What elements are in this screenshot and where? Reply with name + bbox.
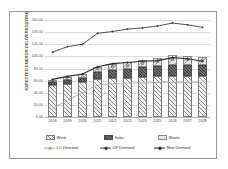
legend-label-med-demand: Med Demand [167,145,191,150]
line-series-overlay [45,20,210,117]
x-axis-labels: 2018201920202021202220232024202520262027… [45,119,210,129]
x-axis-tick-label: 2025 [153,119,161,123]
line-marker [51,78,53,80]
line-marker [111,30,113,32]
line-marker [66,45,68,47]
legend-item-waste: Waste [158,135,180,140]
line-marker [186,58,188,60]
line-marker [201,26,203,28]
y-axis-title: EXPECTED ENERGY DELIVERED(GWH) [22,3,32,99]
legend-label-up-demand: UP Demand [113,145,135,150]
legend-row-bars: Wind Solar Waste [36,135,212,144]
x-axis-tick-label: 2023 [123,119,131,123]
wind-swatch-icon [46,135,55,140]
y-axis-tick-label: 60,00 [34,79,43,83]
line-med-demand [53,58,203,80]
x-axis-tick-label: 2028 [198,119,206,123]
line-marker [156,59,158,61]
line-up-demand [53,23,203,52]
x-axis-tick-label: 2020 [78,119,86,123]
line-lo-demand [53,82,203,108]
chart-plot-frame: EXPECTED ENERGY DELIVERED(GWH) 160,00140… [9,11,217,159]
legend-label-solar: Solar [115,135,124,140]
solar-swatch-icon [104,135,113,140]
gridline [45,117,210,118]
legend-row-lines: LO Demand UP Demand Med Demand [36,145,212,154]
y-axis-tick-label: 100,00 [32,54,43,58]
legend-item-lo-demand: LO Demand [44,145,78,150]
y-axis-tick-label: 80,00 [34,67,43,71]
y-axis-tick-label: 120,00 [32,42,43,46]
line-marker [186,24,188,26]
x-axis-tick-label: 2024 [138,119,146,123]
up-demand-line-icon [100,145,111,150]
chart-legend: Wind Solar Waste LO Demand [36,135,212,157]
line-marker [126,28,128,30]
plot-area: 160,00140,00120,00100,0080,0060,0040,002… [45,20,210,117]
x-axis-tick-label: 2021 [93,119,101,123]
y-axis-tick-label: 140,00 [32,30,43,34]
line-marker [171,22,173,24]
line-marker [141,60,143,62]
x-axis-tick-label: 2018 [48,119,56,123]
legend-label-wind: Wind [57,135,66,140]
legend-item-solar: Solar [104,135,124,140]
legend-label-waste: Waste [169,135,180,140]
line-marker [51,51,53,53]
x-axis-tick-label: 2019 [63,119,71,123]
legend-label-lo-demand: LO Demand [57,145,79,150]
line-marker [141,27,143,29]
y-axis-tick-label: 20,00 [34,103,43,107]
y-axis-tick-label: 160,00 [32,18,43,22]
line-marker [126,61,128,63]
waste-swatch-icon [158,135,167,140]
legend-item-med-demand: Med Demand [154,145,191,150]
x-axis-tick-label: 2026 [168,119,176,123]
lo-demand-line-icon [44,145,55,150]
x-axis-tick-label: 2027 [183,119,191,123]
line-marker [201,60,203,62]
line-marker [111,62,113,64]
med-demand-line-icon [154,145,165,150]
y-axis-tick-label: 0,00 [36,115,43,119]
chart-figure: EXPECTED ENERGY DELIVERED(GWH) 160,00140… [0,0,228,169]
legend-item-wind: Wind [46,135,66,140]
line-marker [66,75,68,77]
line-marker [156,25,158,27]
y-axis-tick-label: 40,00 [34,91,43,95]
legend-item-up-demand: UP Demand [100,145,134,150]
line-marker [171,56,173,58]
x-axis-tick-label: 2022 [108,119,116,123]
